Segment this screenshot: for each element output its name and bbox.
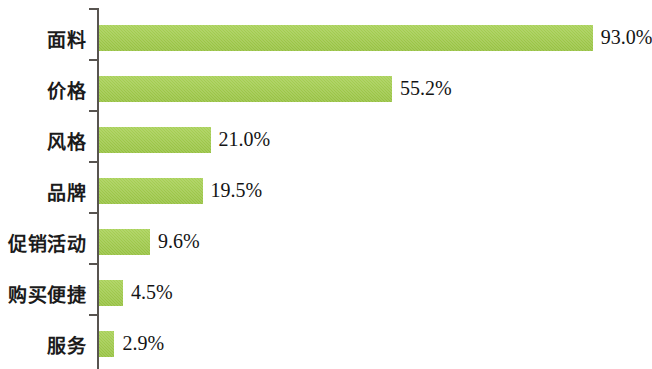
- bar-value-label: 9.6%: [158, 230, 200, 253]
- chart-row: 促销活动 9.6%: [0, 217, 652, 266]
- category-label: 服务: [47, 330, 86, 357]
- axis-tick: [89, 8, 98, 10]
- bar: [99, 229, 150, 255]
- bar-value-label: 2.9%: [122, 332, 164, 355]
- bar-group: 21.0%: [99, 127, 270, 153]
- bar-value-label: 55.2%: [400, 77, 452, 100]
- bar-group: 93.0%: [99, 25, 652, 51]
- category-label: 购买便捷: [8, 279, 86, 306]
- category-label: 促销活动: [8, 228, 86, 255]
- chart-row: 服务 2.9%: [0, 319, 652, 368]
- category-label: 品牌: [47, 177, 86, 204]
- bar: [99, 178, 203, 204]
- chart-row: 价格 55.2%: [0, 64, 652, 113]
- bar-group: 9.6%: [99, 229, 200, 255]
- horizontal-bar-chart: 面料 93.0% 价格 55.2% 风格 21.0% 品牌 19.5% 促销活动…: [0, 0, 652, 369]
- bar: [99, 25, 593, 51]
- category-label: 价格: [47, 75, 86, 102]
- category-label: 面料: [47, 24, 86, 51]
- bar-group: 19.5%: [99, 178, 262, 204]
- bar-group: 4.5%: [99, 280, 173, 306]
- bar: [99, 280, 123, 306]
- chart-row: 风格 21.0%: [0, 115, 652, 164]
- bar: [99, 331, 114, 357]
- bar-group: 2.9%: [99, 331, 164, 357]
- bar-value-label: 93.0%: [601, 26, 652, 49]
- chart-row: 品牌 19.5%: [0, 166, 652, 215]
- bar-group: 55.2%: [99, 76, 452, 102]
- bar-value-label: 19.5%: [211, 179, 263, 202]
- bar: [99, 76, 392, 102]
- category-label: 风格: [47, 126, 86, 153]
- chart-row: 购买便捷 4.5%: [0, 268, 652, 317]
- bar-value-label: 21.0%: [219, 128, 271, 151]
- chart-row: 面料 93.0%: [0, 13, 652, 62]
- bar-value-label: 4.5%: [131, 281, 173, 304]
- bar: [99, 127, 211, 153]
